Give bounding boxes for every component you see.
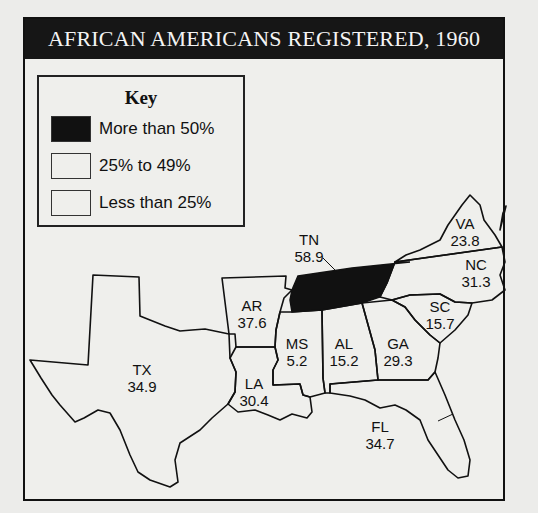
svg-text:29.3: 29.3 [383,352,412,369]
svg-text:31.3: 31.3 [461,273,490,290]
state-virginia [395,195,502,262]
svg-text:30.4: 30.4 [239,392,268,409]
svg-text:5.2: 5.2 [287,352,308,369]
state-tennessee [290,262,410,312]
label-sc: SC 15.7 [425,298,454,332]
svg-text:58.9: 58.9 [294,248,323,265]
svg-text:15.2: 15.2 [329,352,358,369]
label-al: AL 15.2 [329,335,358,369]
svg-text:LA: LA [245,375,263,392]
state-florida [330,372,470,478]
label-la: LA 30.4 [239,375,268,409]
label-ms: MS 5.2 [286,335,309,369]
label-tx: TX 34.9 [127,361,156,395]
label-nc: NC 31.3 [461,256,490,290]
label-fl: FL 34.7 [365,418,394,452]
label-tn: TN 58.9 [294,231,323,265]
svg-text:FL: FL [371,418,389,435]
svg-text:23.8: 23.8 [450,232,479,249]
fl-leader-line [438,414,453,421]
svg-text:VA: VA [456,215,475,232]
svg-text:SC: SC [430,298,451,315]
label-ga: GA 29.3 [383,335,412,369]
svg-text:TN: TN [299,231,319,248]
svg-text:TX: TX [132,361,151,378]
label-va: VA 23.8 [450,215,479,249]
svg-text:MS: MS [286,335,309,352]
label-ar: AR 37.6 [237,297,266,331]
svg-text:15.7: 15.7 [425,315,454,332]
svg-text:34.9: 34.9 [127,378,156,395]
svg-text:34.7: 34.7 [365,435,394,452]
svg-text:AL: AL [335,335,353,352]
southern-states-map: TX 34.9 AR 37.6 LA 30.4 MS 5.2 AL 15.2 G… [0,0,538,513]
svg-text:NC: NC [465,256,487,273]
svg-text:GA: GA [387,335,409,352]
tn-leader-line [323,258,335,270]
chesapeake-shore [500,206,506,230]
svg-text:37.6: 37.6 [237,314,266,331]
svg-text:AR: AR [242,297,263,314]
